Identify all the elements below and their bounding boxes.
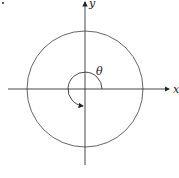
y-axis-label: y: [88, 0, 96, 10]
x-axis-label: x: [173, 83, 179, 96]
corner-dot: [2, 2, 4, 4]
theta-label: θ: [96, 65, 103, 78]
unit-circle-diagram: x y θ: [0, 0, 179, 178]
